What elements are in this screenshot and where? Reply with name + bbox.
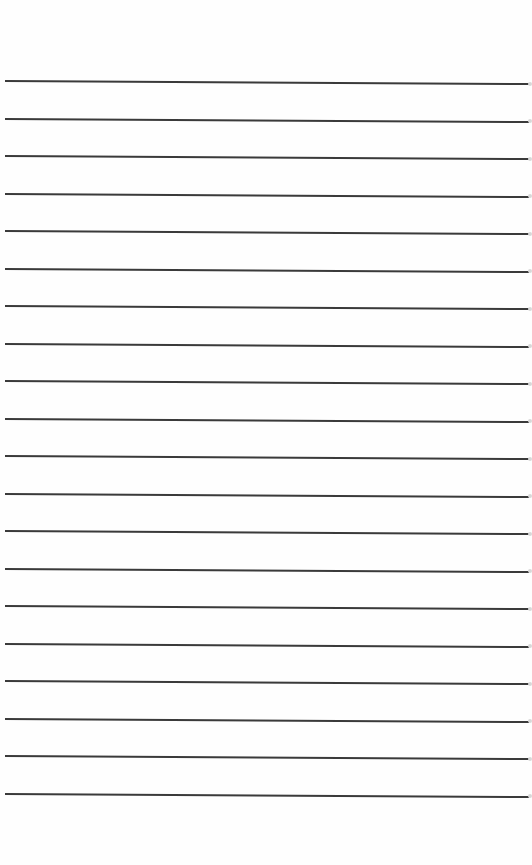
line-end-mark [528, 494, 532, 498]
ruled-line [5, 80, 529, 85]
ruled-line [5, 755, 529, 760]
ruled-line [5, 380, 529, 385]
line-end-mark [528, 794, 532, 798]
line-end-mark [528, 569, 532, 573]
line-end-mark [528, 682, 532, 686]
line-end-mark [528, 457, 532, 461]
ruled-line [5, 455, 529, 460]
ruled-line [5, 643, 529, 648]
ruled-line [5, 305, 529, 310]
line-end-mark [528, 719, 532, 723]
ruled-line [5, 155, 529, 160]
line-end-mark [528, 419, 532, 423]
line-end-mark [528, 307, 532, 311]
line-end-mark [528, 344, 532, 348]
ruled-line [5, 268, 529, 273]
ruled-line [5, 793, 529, 798]
line-end-mark [528, 757, 532, 761]
line-end-mark [528, 232, 532, 236]
ruled-line [5, 493, 529, 498]
lined-paper-page [0, 0, 532, 865]
ruled-line [5, 568, 529, 573]
ruled-line [5, 230, 529, 235]
ruled-line [5, 343, 529, 348]
line-end-mark [528, 119, 532, 123]
line-end-mark [528, 157, 532, 161]
line-end-mark [528, 382, 532, 386]
line-end-mark [528, 607, 532, 611]
ruled-line [5, 193, 529, 198]
line-end-mark [528, 269, 532, 273]
ruled-line [5, 118, 529, 123]
ruled-line [5, 530, 529, 535]
ruled-line [5, 718, 529, 723]
ruled-line [5, 418, 529, 423]
ruled-line [5, 605, 529, 610]
line-end-mark [528, 532, 532, 536]
line-end-mark [528, 82, 532, 86]
line-end-mark [528, 194, 532, 198]
line-end-mark [528, 644, 532, 648]
ruled-line [5, 680, 529, 685]
